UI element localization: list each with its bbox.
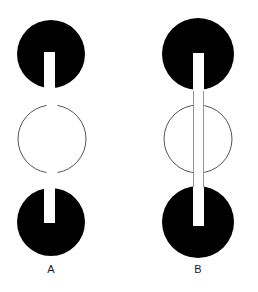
panel-b-connecting-bar [193,53,204,226]
panel-a-slot-upper-segment [44,52,55,89]
panel-label-b: B [186,263,210,275]
panel-a-slot-lower-segment [44,188,55,223]
gestalt-occlusion-figure [0,0,258,292]
figure-canvas: A B [0,0,258,292]
panel-label-a: A [39,263,63,275]
